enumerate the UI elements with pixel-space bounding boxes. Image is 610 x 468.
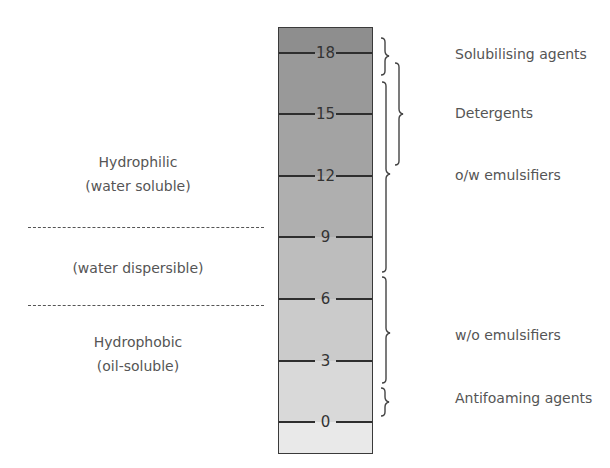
antifoaming-agents-label: Antifoaming agents [455,390,592,406]
brace-ow-emulsifiers-icon [382,82,390,272]
detergents-label: Detergents [455,105,533,121]
ow-emulsifiers-label: o/w emulsifiers [455,167,561,183]
brace-wo-emulsifiers-icon [382,277,390,383]
brace-antifoaming-icon [381,388,389,416]
brace-solubilising-icon [381,38,389,75]
wo-emulsifiers-label: w/o emulsifiers [455,327,561,343]
solubilising-agents-label: Solubilising agents [455,46,587,62]
brace-detergents-icon [395,63,403,165]
